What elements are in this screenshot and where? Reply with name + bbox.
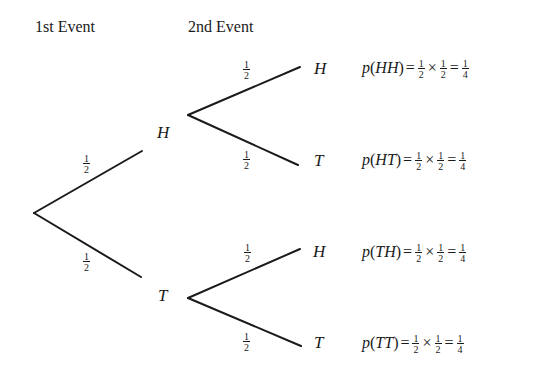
equals-sign: = [400, 334, 409, 352]
denominator: 2 [419, 70, 424, 79]
denominator: 2 [416, 162, 421, 171]
prob-denominator: 2 [84, 263, 89, 272]
numerator: 1 [460, 151, 465, 160]
node-t: T [158, 286, 167, 306]
p-symbol: p [362, 59, 370, 77]
tree-branches [0, 0, 539, 376]
factor-a: 12 [415, 151, 422, 171]
prob-denominator: 2 [244, 161, 249, 170]
leaf-hh: H [314, 59, 326, 79]
denominator: 2 [436, 345, 441, 354]
event-label: HH [375, 59, 398, 77]
result: 14 [459, 243, 466, 263]
factor-a: 12 [418, 59, 425, 79]
result: 14 [462, 59, 469, 79]
denominator: 4 [458, 345, 463, 354]
prob-h-to-h: 12 [243, 60, 250, 80]
denominator: 4 [460, 254, 465, 263]
prob-denominator: 2 [244, 343, 249, 352]
factor-b: 12 [440, 59, 447, 79]
prob-denominator: 2 [84, 165, 89, 174]
leaf-ht: T [314, 151, 323, 171]
numerator: 1 [436, 334, 441, 343]
prob-numerator: 1 [244, 150, 249, 159]
close-paren: ) [396, 151, 401, 169]
equals-sign: = [447, 151, 456, 169]
prob-root-to-t: 12 [83, 252, 90, 272]
equals-sign: = [403, 151, 412, 169]
times-sign: × [428, 59, 437, 77]
event-label: TH [375, 243, 395, 261]
numerator: 1 [438, 243, 443, 252]
equals-sign: = [406, 59, 415, 77]
prob-numerator: 1 [245, 243, 250, 252]
event-label: HT [375, 151, 395, 169]
numerator: 1 [416, 243, 421, 252]
denominator: 2 [438, 162, 443, 171]
numerator: 1 [441, 59, 446, 68]
factor-a: 12 [412, 334, 419, 354]
outcome-th: p(TH)= 12 × 12 = 14 [362, 242, 467, 262]
prob-numerator: 1 [84, 154, 89, 163]
factor-a: 12 [415, 243, 422, 263]
numerator: 1 [460, 243, 465, 252]
leaf-tt: T [314, 333, 323, 353]
equals-sign: = [447, 243, 456, 261]
numerator: 1 [416, 151, 421, 160]
prob-t-to-h: 12 [244, 243, 251, 263]
p-symbol: p [362, 334, 370, 352]
times-sign: × [425, 243, 434, 261]
p-symbol: p [362, 243, 370, 261]
close-paren: ) [398, 59, 403, 77]
numerator: 1 [419, 59, 424, 68]
leaf-th: H [313, 242, 325, 262]
denominator: 4 [460, 162, 465, 171]
prob-numerator: 1 [244, 332, 249, 341]
denominator: 2 [438, 254, 443, 263]
equals-sign: = [445, 334, 454, 352]
result: 14 [457, 334, 464, 354]
factor-b: 12 [437, 243, 444, 263]
numerator: 1 [463, 59, 468, 68]
close-paren: ) [396, 243, 401, 261]
close-paren: ) [393, 334, 398, 352]
times-sign: × [425, 151, 434, 169]
prob-numerator: 1 [84, 252, 89, 261]
event-label: TT [375, 334, 393, 352]
numerator: 1 [413, 334, 418, 343]
factor-b: 12 [435, 334, 442, 354]
denominator: 2 [416, 254, 421, 263]
prob-root-to-h: 12 [83, 154, 90, 174]
denominator: 2 [413, 345, 418, 354]
prob-h-to-t: 12 [243, 150, 250, 170]
outcome-ht: p(HT)= 12 × 12 = 14 [362, 150, 467, 170]
prob-numerator: 1 [244, 60, 249, 69]
denominator: 4 [463, 70, 468, 79]
p-symbol: p [362, 151, 370, 169]
prob-t-to-t: 12 [243, 332, 250, 352]
factor-b: 12 [437, 151, 444, 171]
numerator: 1 [438, 151, 443, 160]
numerator: 1 [458, 334, 463, 343]
node-h: H [157, 123, 169, 143]
outcome-hh: p(HH)= 12 × 12 = 14 [362, 58, 470, 78]
equals-sign: = [403, 243, 412, 261]
prob-denominator: 2 [245, 254, 250, 263]
times-sign: × [422, 334, 431, 352]
denominator: 2 [441, 70, 446, 79]
equals-sign: = [450, 59, 459, 77]
outcome-tt: p(TT)= 12 × 12 = 14 [362, 333, 465, 353]
prob-denominator: 2 [244, 71, 249, 80]
result: 14 [459, 151, 466, 171]
